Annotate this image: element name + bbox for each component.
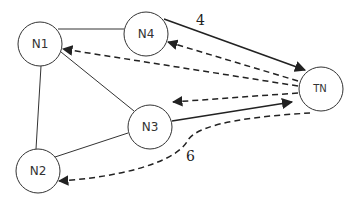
edge-tn-n2 — [59, 113, 310, 181]
edge-n2-n3 — [55, 133, 128, 157]
node-tn-label: TN — [312, 83, 327, 94]
edge-n3-tn — [172, 102, 292, 121]
edge-tn-n3 — [173, 93, 298, 102]
node-n2-label: N2 — [30, 164, 47, 178]
node-n3[interactable]: N3 — [128, 105, 172, 149]
node-n3-label: N3 — [142, 120, 159, 134]
node-n4-label: N4 — [138, 27, 155, 41]
edge-n1-n2 — [36, 66, 41, 149]
node-n4[interactable]: N4 — [124, 12, 168, 56]
node-tn[interactable]: TN — [299, 67, 343, 111]
edge-n4-tn — [164, 19, 305, 70]
edge-n1-n3 — [61, 52, 134, 111]
node-n1[interactable]: N1 — [18, 22, 62, 66]
edge-label-tn-n2: 6 — [186, 148, 195, 164]
edge-label-n4-tn: 4 — [196, 12, 205, 28]
node-n1-label: N1 — [32, 37, 49, 51]
network-diagram: 4 6 N1 N4 TN N3 N2 — [0, 0, 356, 201]
node-n2[interactable]: N2 — [16, 149, 60, 193]
